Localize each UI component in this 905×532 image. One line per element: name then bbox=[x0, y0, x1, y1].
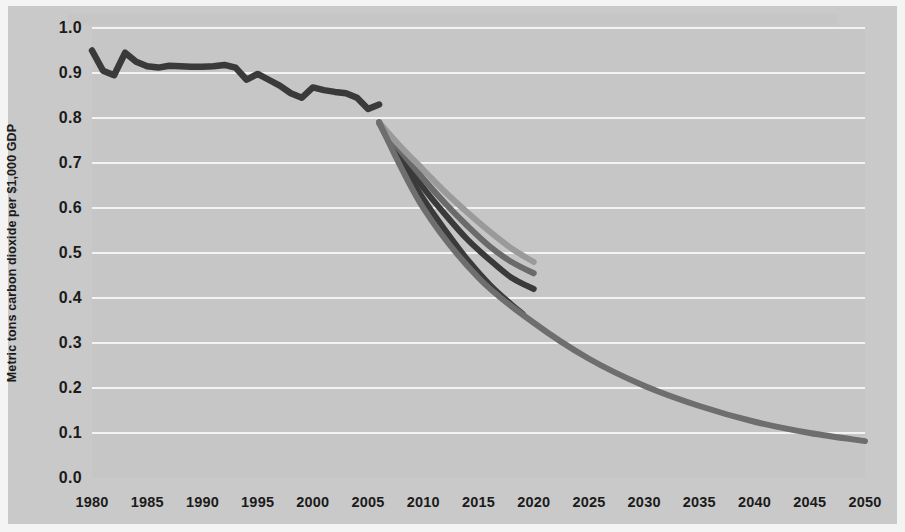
x-axis-tick-label: 1995 bbox=[228, 494, 288, 510]
x-axis-tick-label: 1985 bbox=[117, 494, 177, 510]
y-axis-tick-label: 0.6 bbox=[26, 199, 82, 217]
x-axis-tick-label: 1990 bbox=[172, 494, 232, 510]
x-axis-tick-label: 2005 bbox=[338, 494, 398, 510]
y-axis-tick-label: 0.2 bbox=[26, 379, 82, 397]
x-axis-tick-label: 2020 bbox=[504, 494, 564, 510]
x-axis-tick-label: 2010 bbox=[393, 494, 453, 510]
y-axis-title: Metric tons carbon dioxide per $1,000 GD… bbox=[5, 88, 19, 418]
y-axis-tick-label: 0.9 bbox=[26, 64, 82, 82]
x-axis-tick-label: 2050 bbox=[835, 494, 895, 510]
y-axis-tick-label: 0.4 bbox=[26, 289, 82, 307]
x-axis-tick-label: 2015 bbox=[449, 494, 509, 510]
y-axis-tick-label: 0.7 bbox=[26, 154, 82, 172]
y-axis-tick-label: 0.5 bbox=[26, 244, 82, 262]
chart-line bbox=[92, 51, 379, 110]
chart-figure: Metric tons carbon dioxide per $1,000 GD… bbox=[0, 0, 905, 532]
x-axis-tick-label: 2030 bbox=[614, 494, 674, 510]
plot-area bbox=[92, 28, 865, 478]
y-axis-tick-label: 0.1 bbox=[26, 424, 82, 442]
y-axis-tick-label: 0.0 bbox=[26, 469, 82, 487]
x-axis-tick-label: 2025 bbox=[559, 494, 619, 510]
x-axis-tick-label: 2000 bbox=[283, 494, 343, 510]
y-axis-tick-label: 0.3 bbox=[26, 334, 82, 352]
x-axis-tick-label: 2035 bbox=[669, 494, 729, 510]
y-axis-tick-label: 1.0 bbox=[26, 19, 82, 37]
chart-line bbox=[379, 123, 865, 442]
y-axis-tick-label: 0.8 bbox=[26, 109, 82, 127]
x-axis-tick-label: 1980 bbox=[62, 494, 122, 510]
chart-lines bbox=[92, 28, 865, 478]
x-axis-tick-label: 2040 bbox=[725, 494, 785, 510]
x-axis-tick-label: 2045 bbox=[780, 494, 840, 510]
bleed-through-text bbox=[68, 14, 838, 25]
